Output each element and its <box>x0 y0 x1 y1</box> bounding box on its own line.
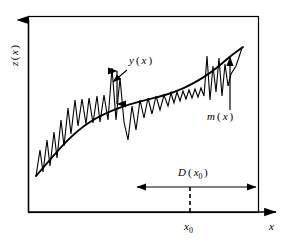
y-axis-label-group: z(x) <box>8 45 21 67</box>
x0-tick-sub: 0 <box>189 226 193 235</box>
svg-text:x0: x0 <box>183 220 193 235</box>
diagram-svg: z(x) y(x) m(x) D(x0) x0 <box>0 0 290 243</box>
figure-container: z(x) y(x) m(x) D(x0) x0 <box>0 0 290 243</box>
y-of-x-arg: x <box>141 54 147 66</box>
y-of-x-label-group: y(x) <box>128 54 152 67</box>
x-axis-label-group: x <box>268 220 274 232</box>
neighborhood-label-group: D(x0) <box>177 166 208 181</box>
x0-tick-label-group: x0 <box>183 220 193 235</box>
neighborhood-arg-sub: 0 <box>199 172 203 181</box>
svg-text:D(x0): D(x0) <box>177 166 208 181</box>
m-of-x-var: m <box>207 110 215 122</box>
svg-text:z(x): z(x) <box>8 45 21 67</box>
m-of-x-label-group: m(x) <box>207 110 234 123</box>
m-of-x-paren-close: ) <box>230 110 234 123</box>
neighborhood-var: D <box>177 166 186 178</box>
neighborhood-paren-open: ( <box>188 166 192 179</box>
m-of-x-paren-open: ( <box>217 110 221 123</box>
y-of-x-paren-open: ( <box>136 54 140 67</box>
m-of-x-arg: x <box>222 110 228 122</box>
y-axis-label-paren-open: ( <box>8 56 21 60</box>
neighborhood-paren-close: ) <box>204 166 208 179</box>
y-axis-label-arg: x <box>8 50 20 56</box>
y-axis-label-var: z <box>8 61 20 67</box>
y-of-x-var: y <box>128 54 134 66</box>
x-axis-label: x <box>268 220 274 232</box>
svg-text:y(x): y(x) <box>128 54 152 67</box>
y-axis-label-paren-close: ) <box>8 45 21 49</box>
y-of-x-paren-close: ) <box>148 54 152 67</box>
svg-text:m(x): m(x) <box>207 110 234 123</box>
